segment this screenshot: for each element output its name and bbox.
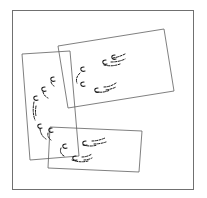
dash-stroke [83, 145, 97, 146]
dash-stroke [76, 73, 80, 83]
curl-glyph [81, 67, 85, 71]
curl-glyph [34, 96, 38, 100]
curl-glyph [112, 55, 116, 59]
glyph-cluster-left [33, 77, 55, 140]
curl-glyph [49, 128, 53, 132]
curl-glyph [103, 60, 107, 64]
diagram-svg [0, 0, 207, 198]
dash-stroke [94, 142, 106, 144]
dash-stroke [92, 138, 105, 141]
curl-glyph [38, 124, 42, 128]
glyph-cluster-bottom [60, 138, 106, 162]
dash-stroke [40, 129, 46, 139]
rect-top-right [58, 29, 174, 108]
dash-stroke [82, 154, 92, 157]
dash-stroke [51, 82, 54, 86]
curl-glyph [81, 82, 85, 86]
dash-stroke [36, 106, 37, 116]
dash-stroke [43, 92, 48, 98]
dash-stroke [60, 148, 64, 156]
outer-frame [13, 11, 194, 190]
dash-stroke [33, 102, 35, 120]
curl-glyph [63, 144, 67, 148]
diagram-canvas [0, 0, 207, 198]
dash-stroke [104, 83, 116, 87]
dash-stroke [84, 158, 92, 160]
rect-left [22, 51, 79, 160]
rect-bottom [48, 127, 142, 172]
dash-stroke [106, 87, 116, 90]
curl-glyph [51, 77, 55, 81]
curl-glyph [42, 87, 46, 91]
glyph-cluster-top-right [76, 54, 125, 92]
dash-stroke [96, 90, 110, 92]
